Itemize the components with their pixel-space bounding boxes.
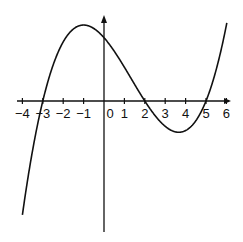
x-tick-label: −3 (35, 106, 50, 121)
x-tick-label: 4 (182, 106, 189, 121)
x-tick-label: 1 (121, 106, 128, 121)
x-tick-label: −1 (76, 106, 91, 121)
x-tick-label: 6 (223, 106, 230, 121)
y-axis-arrow-icon (101, 15, 107, 23)
plot-area: −4−3−2−10123456 (0, 0, 243, 242)
cubic-graph: −4−3−2−10123456 (0, 0, 243, 242)
x-tick-label: 2 (141, 106, 148, 121)
x-tick-label: −4 (15, 106, 30, 121)
x-tick-label: 0 (106, 106, 113, 121)
x-axis-arrow-icon (224, 98, 231, 104)
x-tick-label: 3 (162, 106, 169, 121)
x-tick-label: −2 (56, 106, 71, 121)
